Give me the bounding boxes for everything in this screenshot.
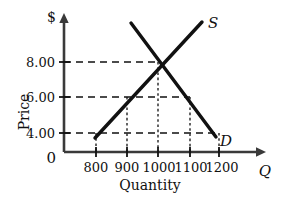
demand-curve xyxy=(131,23,216,137)
x-axis-title: Quantity xyxy=(119,177,181,193)
origin-label: 0 xyxy=(46,149,56,167)
y-tick-label-8: 8.00 xyxy=(26,55,55,70)
x-tick-label-1000: 1000 xyxy=(142,160,175,175)
x-tick-label-800: 800 xyxy=(84,160,109,175)
vertical-guide-lines xyxy=(96,62,219,152)
x-axis-symbol-label: Q xyxy=(259,162,271,180)
supply-curve xyxy=(95,22,202,138)
supply-curve-label: S xyxy=(208,14,218,32)
chart-canvas: 8.00 6.00 4.00 800 900 1000 1100 1200 0 … xyxy=(0,0,300,204)
supply-demand-chart: 8.00 6.00 4.00 800 900 1000 1100 1200 0 … xyxy=(0,0,300,204)
y-axis-arrow-icon xyxy=(59,13,68,23)
y-axis-symbol-label: $ xyxy=(47,9,56,25)
demand-curve-label: D xyxy=(219,132,232,150)
x-tick-label-1200: 1200 xyxy=(205,160,238,175)
axes xyxy=(59,13,266,157)
x-axis-arrow-icon xyxy=(256,147,266,156)
x-tick-label-900: 900 xyxy=(115,160,140,175)
x-tick-label-1100: 1100 xyxy=(174,160,207,175)
horizontal-guide-lines xyxy=(64,62,219,133)
y-axis-title: Price xyxy=(16,94,32,131)
